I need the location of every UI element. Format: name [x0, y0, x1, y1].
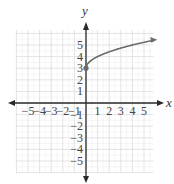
y-tick-label: 1: [77, 84, 83, 98]
curve-line: [86, 40, 153, 68]
y-tick-label: −5: [70, 154, 83, 168]
x-tick-label: 5: [141, 104, 147, 118]
x-axis-right-arrow-icon: [157, 100, 164, 106]
x-tick-label: 1: [95, 104, 101, 118]
x-axis-left-arrow-icon: [8, 100, 15, 106]
y-axis-down-arrow-icon: [83, 176, 89, 183]
start-point-dot: [83, 66, 88, 71]
x-tick-label: 2: [106, 104, 112, 118]
curve-series: [83, 37, 157, 71]
x-tick-label: 4: [129, 104, 135, 118]
curve-end-arrow-icon: [150, 37, 157, 43]
x-tick-label: 3: [118, 104, 124, 118]
y-axis-up-arrow-icon: [83, 22, 89, 30]
y-axis-label: y: [80, 3, 88, 18]
coordinate-plane: −5−4−3−2−11234554321−1−2−3−4−5 x y: [0, 0, 174, 184]
x-axis-label: x: [165, 95, 172, 110]
axes: [8, 22, 164, 183]
grid: [16, 30, 153, 173]
